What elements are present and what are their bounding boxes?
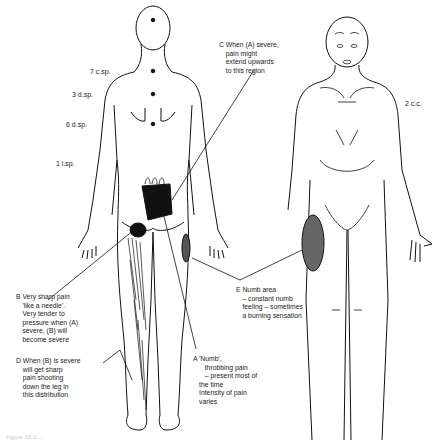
level-1-lsp: 1 l.sp. xyxy=(56,160,75,167)
annotation-a-letter: A xyxy=(193,355,197,362)
leader-e-front xyxy=(240,250,302,280)
annotation-a: A 'Numb', throbbing pain – present most … xyxy=(193,355,257,407)
level-7-csp: 7 c.sp. xyxy=(90,68,111,75)
region-e-back xyxy=(182,234,190,262)
annotation-e-text: Numb area – constant numb feeling – some… xyxy=(242,286,302,320)
region-e-front xyxy=(302,215,324,271)
annotation-b: B Very sharp pain 'like a needle'. Very … xyxy=(16,293,78,345)
annotation-c-text: When (A) severe, pain might extend upwar… xyxy=(226,41,279,75)
annotation-e-letter: E xyxy=(236,286,241,293)
annotation-d: D When (B) is severe will get sharp pain… xyxy=(16,357,81,400)
region-a xyxy=(142,184,172,220)
annotation-b-text: Very sharp pain 'like a needle'. Very te… xyxy=(22,293,78,345)
leader-e-back xyxy=(192,258,240,280)
region-b xyxy=(130,223,146,237)
leader-lines xyxy=(48,70,302,380)
annotation-c-letter: C xyxy=(219,41,224,48)
figure-caption: Figure 15.1 ... xyxy=(6,434,43,440)
annotation-b-letter: B xyxy=(16,293,21,300)
annotation-a-text: 'Numb', throbbing pain – present most of… xyxy=(199,355,257,407)
annotation-d-text: When (B) is severe will get sharp pain s… xyxy=(23,357,81,400)
level-6-dsp: 6 d.sp. xyxy=(66,121,87,128)
annotation-c: C When (A) severe, pain might extend upw… xyxy=(219,41,279,75)
front-view-figure xyxy=(288,17,432,440)
leader-d xyxy=(103,350,132,380)
leader-a xyxy=(160,200,196,349)
level-3-dsp: 3 d.sp. xyxy=(72,91,93,98)
annotation-d-letter: D xyxy=(16,357,21,364)
level-2-cc: 2 c.c. xyxy=(405,100,422,107)
region-d xyxy=(128,238,146,410)
leader-b xyxy=(48,230,134,300)
leader-c xyxy=(172,70,254,200)
annotation-e: E Numb area – constant numb feeling – so… xyxy=(236,286,303,320)
